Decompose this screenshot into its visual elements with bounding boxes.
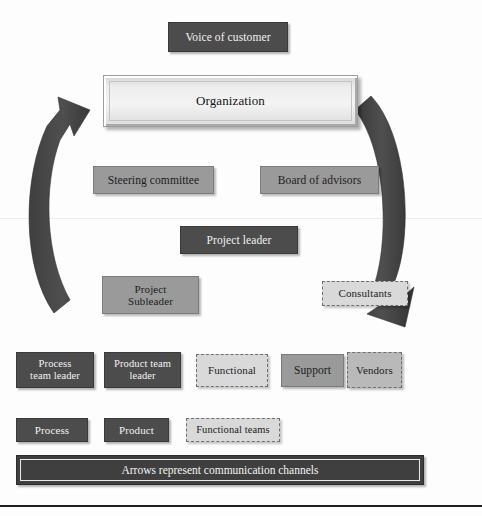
node-steering-committee[interactable]: Steering committee bbox=[93, 166, 214, 194]
diagram-canvas: Voice of customer Organization Steering … bbox=[0, 0, 482, 516]
node-label: Organization bbox=[196, 94, 265, 109]
banner-inner-frame: Arrows represent communication channels bbox=[20, 459, 420, 481]
node-project-subleader[interactable]: Project Subleader bbox=[102, 276, 199, 314]
legend-item-product[interactable]: Product bbox=[104, 418, 169, 442]
node-label: Project leader bbox=[207, 234, 272, 247]
node-board-of-advisors[interactable]: Board of advisors bbox=[260, 166, 379, 194]
node-label: Vendors bbox=[356, 364, 393, 376]
node-support[interactable]: Support bbox=[281, 354, 344, 387]
node-functional[interactable]: Functional bbox=[196, 354, 268, 387]
node-consultants[interactable]: Consultants bbox=[322, 281, 408, 306]
node-vendors[interactable]: Vendors bbox=[347, 352, 402, 388]
node-label: Voice of customer bbox=[185, 31, 270, 44]
node-product-team-leader[interactable]: Product team leader bbox=[104, 352, 181, 388]
banner-label: Arrows represent communication channels bbox=[121, 464, 318, 476]
node-voice-of-customer[interactable]: Voice of customer bbox=[168, 22, 288, 52]
node-label: Functional bbox=[208, 364, 256, 376]
node-project-leader[interactable]: Project leader bbox=[180, 226, 298, 254]
legend-label: Functional teams bbox=[196, 424, 270, 436]
legend-item-process[interactable]: Process bbox=[16, 418, 88, 442]
node-label: Board of advisors bbox=[278, 174, 361, 187]
page-bottom-rule bbox=[0, 505, 482, 507]
left-feedback-arrow bbox=[29, 97, 90, 313]
node-label: Support bbox=[294, 364, 331, 377]
legend-label: Product bbox=[119, 424, 154, 436]
node-label: Product team leader bbox=[114, 358, 171, 382]
node-label: Process team leader bbox=[30, 358, 80, 382]
legend-label: Process bbox=[35, 424, 69, 436]
communication-channels-banner: Arrows represent communication channels bbox=[16, 455, 424, 485]
node-label: Project Subleader bbox=[128, 283, 173, 308]
node-process-team-leader[interactable]: Process team leader bbox=[16, 352, 94, 388]
node-organization[interactable]: Organization bbox=[103, 75, 358, 127]
legend-item-functional-teams[interactable]: Functional teams bbox=[186, 418, 280, 442]
node-label: Steering committee bbox=[108, 174, 200, 187]
node-label: Consultants bbox=[338, 287, 391, 299]
